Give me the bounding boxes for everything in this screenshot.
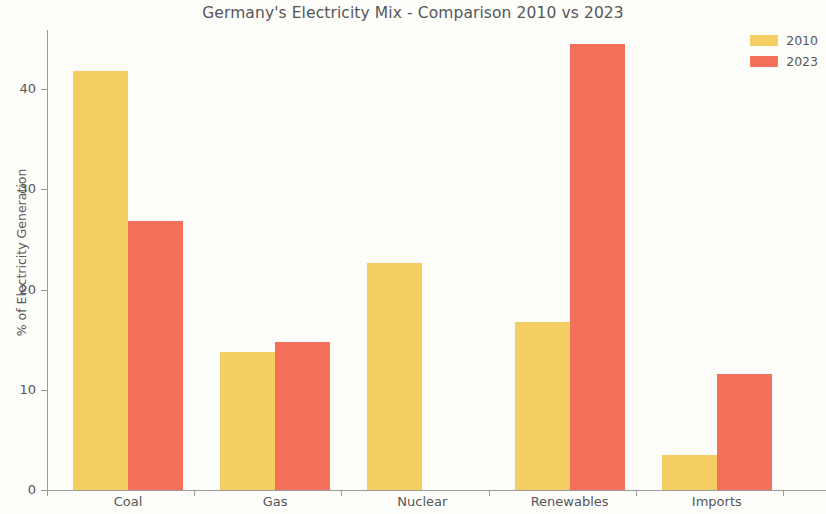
x-axis-label-renewables: Renewables [500, 494, 640, 509]
bar-imports-2010 [662, 455, 717, 490]
legend-swatch-2023 [750, 56, 778, 67]
legend-item-2010[interactable]: 2010 [750, 33, 818, 48]
bar-coal-2023 [128, 221, 183, 490]
x-axis-label-gas: Gas [205, 494, 345, 509]
x-axis-label-nuclear: Nuclear [352, 494, 492, 509]
legend-label-2010: 2010 [786, 33, 818, 48]
legend-label-2023: 2023 [786, 54, 818, 69]
bar-renewables-2023 [570, 44, 625, 490]
x-axis-label-coal: Coal [58, 494, 198, 509]
bar-gas-2010 [220, 352, 275, 490]
bar-nuclear-2010 [367, 263, 422, 490]
x-axis-label-imports: Imports [647, 494, 787, 509]
bar-imports-2023 [717, 374, 772, 490]
legend-item-2023[interactable]: 2023 [750, 54, 818, 69]
chart-legend: 20102023 [750, 33, 818, 69]
bar-gas-2023 [275, 342, 330, 490]
bar-renewables-2010 [515, 322, 570, 490]
x-axis-line [47, 490, 826, 491]
bar-coal-2010 [73, 71, 128, 490]
x-axis-tick [47, 491, 48, 496]
legend-swatch-2010 [750, 35, 778, 46]
bars-layer [0, 0, 826, 490]
bar-chart: Germany's Electricity Mix - Comparison 2… [0, 0, 826, 514]
